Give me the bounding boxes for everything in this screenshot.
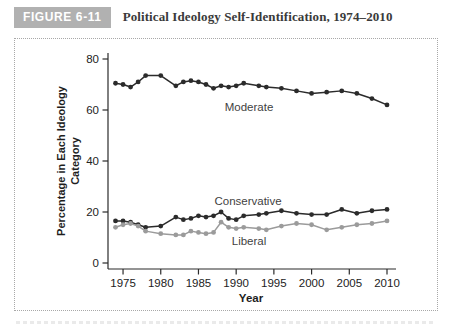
liberal-marker: [279, 224, 284, 229]
y-axis-title-line1: Percentage in Each Ideology: [55, 85, 67, 236]
liberal-line-series: Liberal: [113, 219, 389, 247]
liberal-marker: [143, 229, 148, 234]
liberal-marker: [196, 230, 201, 235]
conservative-marker: [158, 224, 163, 229]
moderate-marker: [385, 103, 390, 108]
x-tick-label: 2010: [374, 277, 400, 289]
y-tick-label: 60: [86, 104, 99, 116]
y-tick-label: 0: [93, 257, 99, 269]
moderate-marker: [339, 88, 344, 93]
liberal-marker: [324, 227, 329, 232]
conservative-marker: [309, 212, 314, 217]
moderate-marker: [189, 78, 194, 83]
moderate-marker: [354, 91, 359, 96]
liberal-marker: [294, 221, 299, 226]
conservative-marker: [324, 212, 329, 217]
conservative-marker: [294, 211, 299, 216]
x-tick-label: 1990: [223, 277, 249, 289]
conservative-line-series: Conservative: [113, 195, 389, 230]
moderate-marker: [204, 82, 209, 87]
figure-page: { "figure": { "badge": "FIGURE 6-11", "t…: [0, 0, 453, 330]
conservative-marker: [113, 219, 118, 224]
conservative-marker: [354, 211, 359, 216]
conservative-marker: [219, 210, 224, 215]
conservative-marker: [181, 217, 186, 222]
figure-header: FIGURE 6-11 Political Ideology Self-Iden…: [14, 5, 443, 29]
x-tick-label: 1980: [148, 277, 174, 289]
liberal-marker: [309, 222, 314, 227]
conservative-marker: [211, 213, 216, 218]
moderate-marker: [181, 80, 186, 85]
y-tick-label: 40: [86, 155, 99, 167]
moderate-marker: [136, 80, 141, 85]
x-tick-label: 2005: [336, 277, 362, 289]
moderate-marker: [226, 85, 231, 90]
conservative-line: [116, 209, 388, 227]
moderate-marker: [234, 83, 239, 88]
liberal-marker: [234, 226, 239, 231]
liberal-marker: [181, 233, 186, 238]
moderate-series-label: Moderate: [225, 101, 274, 113]
moderate-marker: [196, 80, 201, 85]
conservative-marker: [264, 211, 269, 216]
liberal-marker: [121, 222, 126, 227]
conservative-marker: [241, 213, 246, 218]
moderate-marker: [219, 83, 224, 88]
liberal-line: [116, 221, 388, 235]
x-tick-label: 2000: [299, 277, 325, 289]
liberal-marker: [173, 233, 178, 238]
moderate-marker: [211, 86, 216, 91]
chart-dotted-frame: 0204060801975198019851990199520002005201…: [14, 38, 438, 311]
moderate-marker: [256, 83, 261, 88]
liberal-marker: [211, 230, 216, 235]
conservative-series-label: Conservative: [214, 195, 281, 207]
x-tick-label: 1985: [186, 277, 212, 289]
conservative-marker: [370, 208, 375, 213]
moderate-marker: [264, 85, 269, 90]
liberal-marker: [370, 221, 375, 226]
liberal-marker: [136, 224, 141, 229]
liberal-marker: [113, 225, 118, 230]
moderate-marker: [370, 96, 375, 101]
liberal-marker: [189, 229, 194, 234]
truncated-caption-line: [16, 321, 434, 324]
liberal-marker: [204, 231, 209, 236]
conservative-marker: [234, 217, 239, 222]
liberal-marker: [256, 226, 261, 231]
moderate-marker: [309, 91, 314, 96]
y-axis-title-line2: Category: [69, 136, 81, 185]
liberal-marker: [339, 225, 344, 230]
moderate-marker: [324, 90, 329, 95]
conservative-marker: [279, 208, 284, 213]
liberal-series-label: Liberal: [232, 235, 267, 247]
y-tick-label: 80: [86, 53, 99, 65]
liberal-marker: [385, 219, 390, 224]
moderate-marker: [143, 73, 148, 78]
liberal-marker: [158, 231, 163, 236]
x-axis-ticks: 19751980198519901995200020052010: [110, 269, 400, 289]
moderate-marker: [121, 82, 126, 87]
x-axis-title: Year: [239, 292, 264, 304]
y-tick-label: 20: [86, 206, 99, 218]
figure-title: Political Ideology Self-Identification, …: [123, 9, 393, 25]
conservative-marker: [204, 215, 209, 220]
ideology-line-chart: 0204060801975198019851990199520002005201…: [15, 39, 436, 309]
moderate-marker: [279, 86, 284, 91]
liberal-marker: [219, 220, 224, 225]
conservative-marker: [226, 216, 231, 221]
conservative-marker: [189, 216, 194, 221]
conservative-marker: [339, 207, 344, 212]
conservative-marker: [196, 213, 201, 218]
liberal-marker: [128, 221, 133, 226]
liberal-marker: [241, 225, 246, 230]
liberal-marker: [264, 227, 269, 232]
figure-number-badge: FIGURE 6-11: [14, 7, 111, 28]
conservative-marker: [173, 215, 178, 220]
x-tick-label: 1995: [261, 277, 287, 289]
liberal-marker: [226, 225, 231, 230]
moderate-marker: [158, 73, 163, 78]
y-axis-ticks: 020406080: [86, 53, 108, 269]
liberal-marker: [354, 222, 359, 227]
moderate-marker: [113, 81, 118, 86]
moderate-marker: [128, 85, 133, 90]
